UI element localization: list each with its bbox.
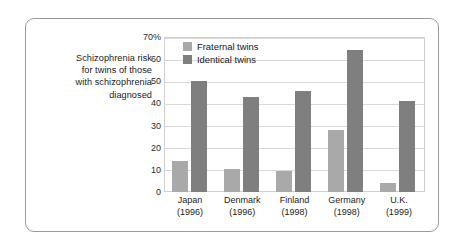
legend-label-identical: Identical twins — [197, 54, 256, 65]
category-year: (1998) — [268, 207, 320, 219]
y-axis-tick-label: 0 — [156, 187, 161, 197]
bar-finland-fraternal — [276, 171, 292, 192]
category-year: (1996) — [216, 207, 268, 219]
x-axis-category-labels: Japan(1996)Denmark(1996)Finland(1998)Ger… — [164, 195, 425, 229]
bar-germany-fraternal — [328, 130, 344, 192]
x-axis-category-label: U.K.(1999) — [373, 195, 425, 218]
y-axis-tick-label: 20 — [151, 143, 161, 153]
bar-japan-identical — [191, 81, 207, 192]
bar-germany-identical — [347, 50, 363, 192]
category-year: (1999) — [373, 207, 425, 219]
x-axis-category-label: Denmark(1996) — [216, 195, 268, 218]
bar-group — [373, 37, 425, 192]
y-axis-tick-label: 10 — [151, 165, 161, 175]
bar-group — [268, 37, 320, 192]
bar-group — [321, 37, 373, 192]
x-axis-category-label: Finland(1998) — [268, 195, 320, 218]
x-axis-category-label: Germany(1998) — [321, 195, 373, 218]
y-axis-tick-label: 60 — [151, 54, 161, 64]
chart-figure: Schizophrenia risk for twins of those wi… — [0, 0, 453, 244]
legend-item-identical: Identical twins — [183, 54, 258, 65]
category-name: Denmark — [224, 195, 261, 205]
x-axis-category-label: Japan(1996) — [164, 195, 216, 218]
y-axis-tick-label: 50 — [151, 76, 161, 86]
bar-denmark-identical — [243, 97, 259, 192]
bar-uk-fraternal — [380, 183, 396, 192]
category-name: Finland — [280, 195, 310, 205]
y-axis-tick-label: 30 — [151, 121, 161, 131]
bar-uk-identical — [399, 101, 415, 192]
legend-swatch-identical — [183, 55, 192, 64]
y-axis-tick-label: 40 — [151, 98, 161, 108]
category-name: Japan — [178, 195, 203, 205]
bar-finland-identical — [295, 91, 311, 192]
y-axis-tick-labels: 010203040506070% — [128, 37, 161, 192]
legend-swatch-fraternal — [183, 42, 192, 51]
bar-denmark-fraternal — [224, 169, 240, 192]
chart-legend: Fraternal twins Identical twins — [183, 41, 258, 65]
category-name: U.K. — [390, 195, 408, 205]
legend-item-fraternal: Fraternal twins — [183, 41, 258, 52]
category-year: (1998) — [321, 207, 373, 219]
legend-label-fraternal: Fraternal twins — [197, 41, 258, 52]
category-year: (1996) — [164, 207, 216, 219]
y-axis-tick-label: 70% — [143, 32, 161, 42]
bar-japan-fraternal — [172, 161, 188, 192]
category-name: Germany — [328, 195, 365, 205]
